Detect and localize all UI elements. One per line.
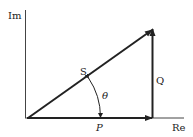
theta-arc bbox=[89, 78, 101, 117]
re-axis-label: Re bbox=[172, 122, 186, 133]
p-label: P bbox=[95, 122, 103, 133]
theta-label: θ bbox=[102, 90, 108, 101]
s-label: S bbox=[80, 66, 87, 77]
im-axis-label: Im bbox=[8, 10, 22, 21]
power-triangle-diagram: Im Re S Q P θ bbox=[0, 0, 193, 137]
s-vector bbox=[28, 30, 152, 118]
q-label: Q bbox=[156, 75, 164, 86]
